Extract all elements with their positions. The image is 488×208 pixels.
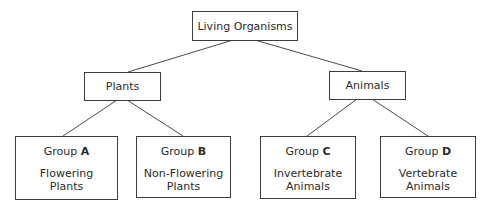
node-plants: Plants xyxy=(84,72,161,101)
node-animals: Animals xyxy=(329,71,406,100)
group-desc-line2: Animals xyxy=(274,180,342,193)
node-group-c: Group C Invertebrate Animals xyxy=(260,136,356,199)
group-desc-line2: Plants xyxy=(144,180,223,193)
connector-root-plants xyxy=(128,40,233,72)
node-group-d: Group D Vertebrate Animals xyxy=(380,136,476,198)
group-prefix: Group xyxy=(285,145,319,158)
node-label: Living Organisms xyxy=(197,20,292,33)
connector-plants-group-a xyxy=(63,100,117,136)
connector-root-animals xyxy=(255,40,362,71)
group-desc-line2: Plants xyxy=(40,180,93,193)
group-heading: Group C xyxy=(285,145,330,158)
group-letter: A xyxy=(81,145,90,158)
group-desc-line1: Invertebrate xyxy=(274,167,342,180)
group-desc-line2: Animals xyxy=(399,180,457,193)
node-label: Animals xyxy=(346,79,390,92)
group-letter: C xyxy=(322,145,330,158)
node-group-a: Group A Flowering Plants xyxy=(15,136,118,200)
group-description: Flowering Plants xyxy=(40,167,93,193)
group-heading: Group B xyxy=(161,145,206,158)
group-desc-line1: Non-Flowering xyxy=(144,167,223,180)
group-prefix: Group xyxy=(405,145,439,158)
group-letter: B xyxy=(198,145,206,158)
group-prefix: Group xyxy=(44,145,78,158)
node-label: Plants xyxy=(106,80,139,93)
group-description: Invertebrate Animals xyxy=(274,167,342,193)
group-heading: Group D xyxy=(405,145,451,158)
connector-animals-group-d xyxy=(372,99,428,136)
group-letter: D xyxy=(442,145,451,158)
connector-plants-group-b xyxy=(127,100,183,136)
group-description: Vertebrate Animals xyxy=(399,167,457,193)
group-description: Non-Flowering Plants xyxy=(144,167,223,193)
group-desc-line1: Vertebrate xyxy=(399,167,457,180)
connector-animals-group-c xyxy=(307,99,357,136)
group-heading: Group A xyxy=(44,145,90,158)
node-group-b: Group B Non-Flowering Plants xyxy=(136,136,231,198)
group-prefix: Group xyxy=(161,145,195,158)
node-living-organisms: Living Organisms xyxy=(192,11,298,41)
group-desc-line1: Flowering xyxy=(40,167,93,180)
